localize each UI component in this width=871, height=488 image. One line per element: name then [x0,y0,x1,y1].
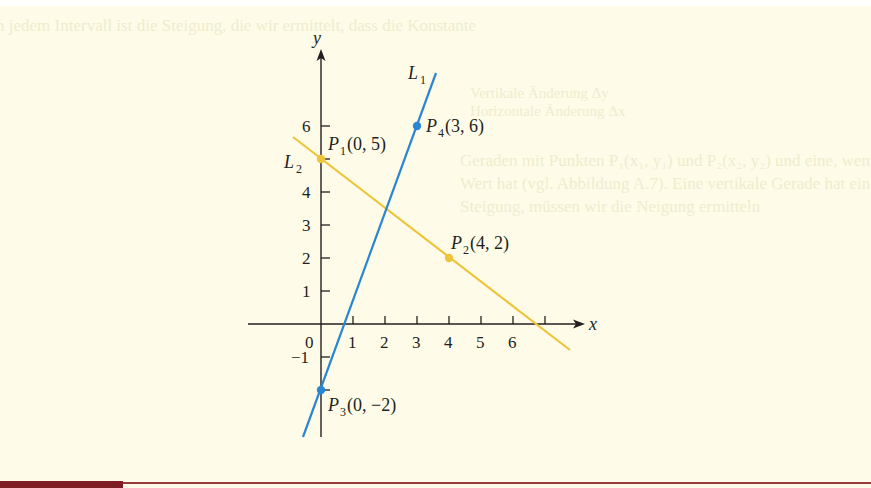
x-tick-label: 6 [508,333,517,352]
svg-text:L: L [283,152,294,172]
x-tick-label: 3 [412,333,421,352]
y-tick-label: 4 [302,183,311,202]
page-background: n jedem Intervall ist die Steigung, die … [0,0,871,488]
svg-text:1: 1 [420,73,426,87]
x-ticks [353,316,545,324]
svg-text:(4, 2): (4, 2) [470,233,509,254]
footer-accent-bar [0,481,123,488]
point-P3 [317,386,325,394]
x-tick-label: 5 [476,333,485,352]
svg-text:(0, −2): (0, −2) [347,395,396,416]
svg-text:(0, 5): (0, 5) [347,134,386,155]
svg-text:(3, 6): (3, 6) [445,116,484,137]
coordinate-plot: y x 0 1 2 3 4 5 6 6 4 3 2 1 −1 L 1 L 2 P… [0,0,871,488]
svg-text:3: 3 [340,405,346,419]
svg-text:L: L [407,63,418,83]
y-tick-label: 3 [302,216,311,235]
line-L2 [293,137,570,350]
svg-text:2: 2 [296,162,302,176]
svg-text:P: P [425,116,437,136]
y-tick-label: 2 [302,249,311,268]
y-tick-label: −1 [291,348,309,367]
x-axis-label: x [588,314,597,334]
svg-text:4: 4 [438,126,444,140]
axes [248,54,580,437]
svg-text:2: 2 [463,243,469,257]
svg-text:P: P [327,134,339,154]
y-tick-label: 1 [302,282,311,301]
svg-text:P: P [450,233,462,253]
footer-rule [0,482,871,484]
point-P2 [445,254,453,262]
label-L1: L 1 [407,63,426,87]
svg-text:1: 1 [340,144,346,158]
svg-text:P: P [327,395,339,415]
y-tick-label: 6 [302,117,311,136]
x-tick-label: 4 [444,333,453,352]
point-P4 [413,122,421,130]
label-P2: P 2 (4, 2) [450,233,509,257]
x-tick-label: 1 [348,333,357,352]
label-P1: P 1 (0, 5) [327,134,386,158]
label-P4: P 4 (3, 6) [425,116,484,140]
label-L2: L 2 [283,152,302,176]
x-tick-label: 2 [380,333,389,352]
y-axis-label: y [311,28,321,48]
point-P1 [317,155,325,163]
label-P3: P 3 (0, −2) [327,395,396,419]
